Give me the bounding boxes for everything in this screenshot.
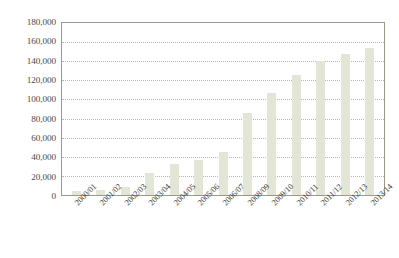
y-tick-label: 160,000 <box>27 36 56 46</box>
x-slot: 2008/09 <box>235 197 260 255</box>
x-axis: 2000/012001/022002/032003/042004/052005/… <box>61 197 385 255</box>
y-tick-label: 60,000 <box>31 133 56 143</box>
bar-chart: 180,000 160,000 140,000 120,000 100,000 … <box>0 0 399 258</box>
bar[interactable] <box>316 61 325 195</box>
x-slot: 2004/05 <box>161 197 186 255</box>
bar-slot <box>284 23 308 195</box>
bar-slot <box>137 23 161 195</box>
x-slot: 2009/10 <box>260 197 285 255</box>
y-tick-label: 40,000 <box>31 152 56 162</box>
x-slot: 2001/02 <box>88 197 113 255</box>
x-slot: 2010/11 <box>284 197 309 255</box>
y-axis: 180,000 160,000 140,000 120,000 100,000 … <box>0 22 60 196</box>
bar-slot <box>333 23 357 195</box>
bar[interactable] <box>341 54 350 195</box>
x-slot: 2012/13 <box>334 197 359 255</box>
bars-layer <box>62 23 384 195</box>
bar[interactable] <box>243 113 252 195</box>
x-slot: 2006/07 <box>211 197 236 255</box>
bar-slot <box>358 23 382 195</box>
bar-slot <box>309 23 333 195</box>
x-slot: 2013/14 <box>358 197 383 255</box>
bar-slot <box>211 23 235 195</box>
y-tick-label: 0 <box>52 191 57 201</box>
bar-slot <box>64 23 88 195</box>
y-tick-label: 140,000 <box>27 56 56 66</box>
y-tick-label: 180,000 <box>27 17 56 27</box>
y-tick-label: 80,000 <box>31 114 56 124</box>
bar-slot <box>113 23 137 195</box>
x-slot: 2000/01 <box>63 197 88 255</box>
bar-slot <box>186 23 210 195</box>
bar[interactable] <box>170 164 179 195</box>
bar[interactable] <box>145 173 154 195</box>
bar-slot <box>88 23 112 195</box>
x-slot: 2002/03 <box>112 197 137 255</box>
y-tick-label: 100,000 <box>27 94 56 104</box>
y-tick-label: 120,000 <box>27 75 56 85</box>
bar[interactable] <box>292 75 301 195</box>
plot-area <box>61 22 385 196</box>
x-slot: 2003/04 <box>137 197 162 255</box>
bar-slot <box>235 23 259 195</box>
bar-slot <box>162 23 186 195</box>
x-slot: 2011/12 <box>309 197 334 255</box>
bar-slot <box>260 23 284 195</box>
y-tick-label: 20,000 <box>31 172 56 182</box>
bar[interactable] <box>267 93 276 195</box>
bar[interactable] <box>365 48 374 195</box>
x-slot: 2005/06 <box>186 197 211 255</box>
